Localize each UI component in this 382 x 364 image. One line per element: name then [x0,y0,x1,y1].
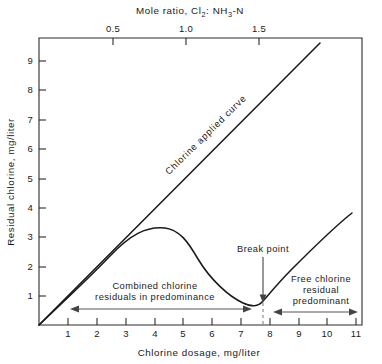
free-chlorine-label-line2: residual [303,285,339,295]
y-tick-label-8: 8 [27,84,33,95]
combined-chlorine-label-line2: residuals in predominance [95,292,215,302]
top-axis-title: Mole ratio, Cl2: NH3-N [136,5,244,19]
free-chlorine-double-arrow [273,309,358,316]
x-tick-label-1: 1 [65,328,71,339]
y-tick-label-5: 5 [27,173,33,184]
free-chlorine-label-line3: predominant [293,296,350,306]
break-point-label: Break point [237,244,289,254]
top-axis-ticks [113,38,259,45]
x-tick-label-4: 4 [152,328,158,339]
y-tick-label-7: 7 [27,114,33,125]
top-tick-label-0: 0.5 [106,23,120,34]
y-tick-label-3: 3 [27,231,33,242]
left-axis-title: Residual chlorine, mg/liter [5,118,16,246]
residual-chlorine-curve [39,213,352,325]
x-tick-label-5: 5 [180,328,186,339]
bottom-axis-ticks [68,318,356,325]
bottom-axis-title: Chlorine dosage, mg/liter [138,347,261,358]
top-tick-label-1: 1.0 [179,23,193,34]
x-tick-label-9: 9 [296,328,302,339]
x-tick-label-7: 7 [238,328,244,339]
breakpoint-chlorination-chart: 0.5 1.0 1.5 Mole ratio, Cl2: NH3-N 1 2 3… [0,0,382,364]
combined-chlorine-double-arrow [70,306,252,313]
free-chlorine-label-line1: Free chlorine [291,274,351,284]
left-axis-ticks [39,61,46,296]
top-tick-label-2: 1.5 [252,23,266,34]
y-tick-label-4: 4 [27,202,33,213]
y-tick-label-1: 1 [27,290,33,301]
x-tick-label-2: 2 [94,328,100,339]
chlorine-applied-curve-label: Chlorine applied curve [164,93,249,177]
y-tick-label-6: 6 [27,143,33,154]
combined-chlorine-label-line1: Combined chlorine [112,281,197,291]
x-tick-label-10: 10 [321,328,332,339]
x-tick-label-3: 3 [123,328,129,339]
y-tick-label-9: 9 [27,55,33,66]
x-tick-label-11: 11 [351,328,361,339]
chart-canvas: 0.5 1.0 1.5 Mole ratio, Cl2: NH3-N 1 2 3… [0,0,382,364]
x-tick-label-6: 6 [209,328,215,339]
y-tick-label-2: 2 [27,261,33,272]
x-tick-label-8: 8 [267,328,273,339]
